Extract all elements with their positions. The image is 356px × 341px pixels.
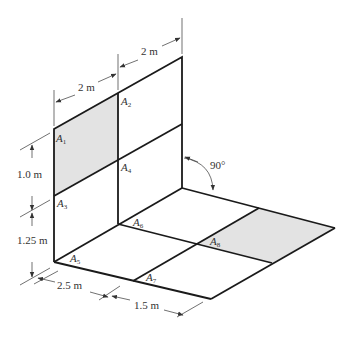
dimension-1-25m <box>20 213 50 285</box>
area-label-a7: A7 <box>145 271 157 285</box>
area-label-a2: A2 <box>120 95 132 109</box>
dim-label-2m-left: 2 m <box>78 81 95 93</box>
shaded-area-a8 <box>197 208 335 263</box>
dim-label-2-5m: 2.5 m <box>57 279 83 291</box>
angle-label-90: 90° <box>210 159 225 171</box>
dim-label-2m-right: 2 m <box>141 45 158 57</box>
area-label-a3: A3 <box>56 197 68 211</box>
right-angle-indicator <box>184 157 213 190</box>
diagram-canvas: 2 m 2 m 1.0 m 1.25 m 2 <box>0 0 356 341</box>
dimension-2m-right <box>120 18 182 67</box>
area-label-a4: A4 <box>120 161 132 175</box>
area-label-a5: A5 <box>69 252 81 266</box>
area-label-a6: A6 <box>132 216 144 230</box>
plate-diagram: 2 m 2 m 1.0 m 1.25 m 2 <box>0 0 356 341</box>
dim-label-1-5m: 1.5 m <box>134 299 160 311</box>
dim-label-1-0m: 1.0 m <box>17 168 43 180</box>
dim-label-1-25m: 1.25 m <box>17 234 48 246</box>
